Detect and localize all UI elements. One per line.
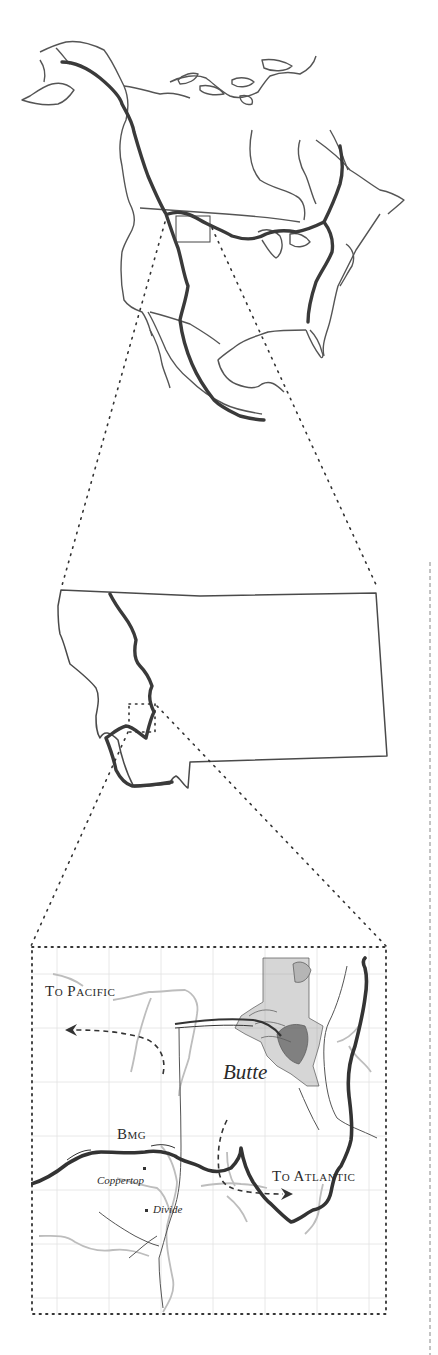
to-pacific-arrowhead xyxy=(65,1024,77,1036)
to-pacific-label: To Pacific xyxy=(45,983,115,1000)
inset-grid xyxy=(31,946,387,1315)
divide-label: Divide xyxy=(153,1203,182,1215)
to-atlantic-label: To Atlantic xyxy=(272,1168,355,1185)
montana-outline xyxy=(58,590,387,788)
inset-frame xyxy=(32,947,386,1314)
butte-inset: To Pacific Butte Bmg Coppertop Divide To… xyxy=(31,946,387,1315)
montana-divide xyxy=(106,594,172,786)
to-pacific-arrow xyxy=(75,1030,164,1074)
butte-label: Butte xyxy=(223,1060,267,1085)
divide-marker xyxy=(145,1209,148,1212)
bmg-label: Bmg xyxy=(117,1126,146,1143)
zoom-projection-lines-2 xyxy=(31,706,386,946)
coppertop-label: Coppertop xyxy=(97,1174,144,1186)
coppertop-marker xyxy=(143,1167,146,1170)
